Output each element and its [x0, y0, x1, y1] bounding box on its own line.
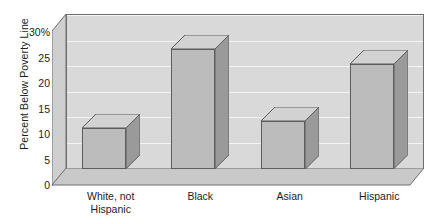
bar-top-1 — [171, 35, 229, 49]
y-tick-30: 30% — [29, 26, 50, 38]
poverty-bar-chart: Percent Below Poverty Line 30%2520151050… — [0, 0, 435, 224]
x-axis-category-labels: White, not HispanicBlackAsianHispanic — [52, 190, 424, 224]
bar-0 — [82, 114, 126, 169]
y-tick-5: 5 — [44, 154, 50, 166]
category-label-3: Hispanic — [325, 190, 435, 203]
bar-1 — [171, 35, 215, 169]
y-tick-10: 10 — [38, 128, 50, 140]
plot-area — [52, 14, 424, 186]
y-tick-0: 0 — [44, 179, 50, 191]
bar-front-1 — [171, 49, 215, 169]
bar-side-3 — [394, 50, 408, 169]
bar-front-3 — [350, 64, 394, 169]
y-tick-25: 25 — [38, 52, 50, 64]
bar-3 — [350, 50, 394, 169]
bar-front-0 — [82, 128, 126, 169]
bar-top-3 — [350, 50, 408, 64]
y-axis-tick-labels: 30%2520151050 — [16, 0, 50, 224]
bars-layer — [52, 14, 424, 186]
bar-front-2 — [261, 121, 305, 169]
y-tick-20: 20 — [38, 77, 50, 89]
bar-top-2 — [261, 107, 319, 121]
bar-2 — [261, 107, 305, 169]
bar-top-0 — [82, 114, 140, 128]
y-tick-15: 15 — [38, 103, 50, 115]
bar-side-1 — [215, 35, 229, 169]
